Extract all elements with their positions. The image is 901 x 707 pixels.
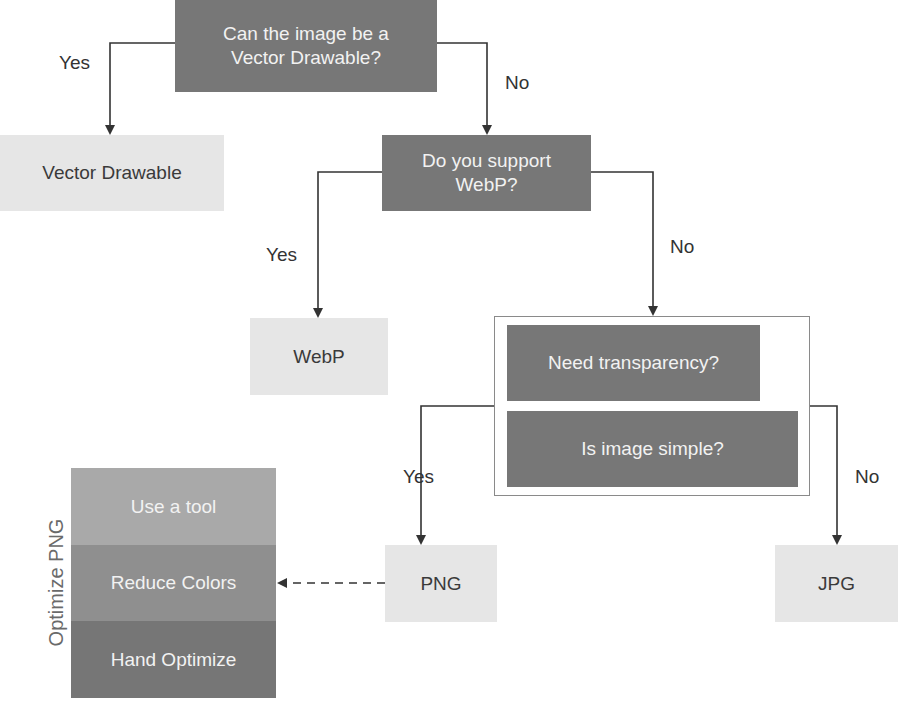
outcome-vector-drawable: Vector Drawable [0,135,224,211]
outcome-webp-text: WebP [293,345,344,369]
decision-vector-drawable: Can the image be a Vector Drawable? [175,0,437,92]
edge-group-no [810,406,837,543]
edge-label-webp-no: No [670,236,694,258]
outcome-png: PNG [385,545,497,622]
decision-transparency: Need transparency? [507,325,760,401]
optimize-png-title: Optimize PNG [45,513,68,653]
decision-webp-support: Do you support WebP? [382,135,591,211]
optimize-step-use-tool: Use a tool [71,468,276,545]
optimize-step-hand-optimize-text: Hand Optimize [111,649,237,671]
edge-webp-yes [318,172,382,316]
edge-vector-yes [110,43,175,133]
optimize-step-reduce-colors-text: Reduce Colors [111,572,237,594]
edge-label-webp-yes: Yes [266,244,297,266]
outcome-vector-drawable-text: Vector Drawable [42,161,181,185]
edge-label-group-no: No [855,466,879,488]
optimize-step-hand-optimize: Hand Optimize [71,621,276,698]
edge-label-vector-yes: Yes [59,52,90,74]
edge-webp-no [591,172,653,314]
optimize-step-use-tool-text: Use a tool [131,496,217,518]
edge-label-group-yes: Yes [403,466,434,488]
outcome-webp: WebP [250,318,388,395]
optimize-step-reduce-colors: Reduce Colors [71,545,276,621]
outcome-jpg: JPG [775,545,898,622]
decision-vector-drawable-text: Can the image be a Vector Drawable? [205,22,407,70]
outcome-jpg-text: JPG [818,572,855,596]
decision-transparency-text: Need transparency? [548,351,719,375]
decision-image-simple: Is image simple? [507,411,798,487]
decision-image-simple-text: Is image simple? [581,437,724,461]
edge-vector-no [437,43,487,133]
outcome-png-text: PNG [420,572,461,596]
edge-label-vector-no: No [505,72,529,94]
decision-webp-support-text: Do you support WebP? [402,149,571,197]
